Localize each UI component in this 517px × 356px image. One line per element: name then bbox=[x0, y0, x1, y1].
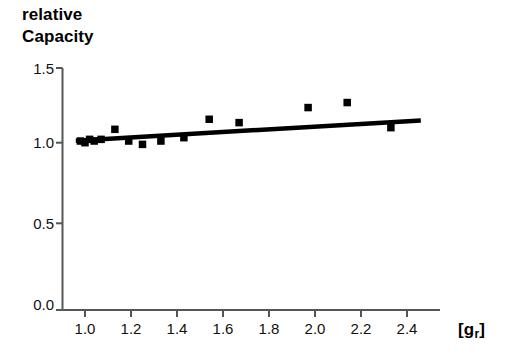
x-axis-ticks bbox=[85, 310, 407, 317]
data-point-marker bbox=[235, 119, 243, 127]
chart-figure: relativeCapacity [gr] 1.5 1.0 0.5 0.0 1.… bbox=[0, 0, 517, 356]
plot-area bbox=[0, 0, 517, 356]
data-point-marker bbox=[205, 116, 213, 124]
data-point-marker bbox=[387, 124, 395, 132]
data-point-marker bbox=[139, 141, 147, 149]
data-point-marker bbox=[304, 104, 312, 112]
data-point-marker bbox=[157, 137, 165, 145]
data-point-marker bbox=[125, 137, 133, 145]
data-point-marker bbox=[111, 126, 119, 134]
data-point-marker bbox=[90, 137, 98, 145]
data-point-marker bbox=[180, 134, 188, 142]
data-point-marker bbox=[343, 99, 351, 107]
axis-lines bbox=[63, 68, 441, 310]
data-point-marker bbox=[97, 136, 105, 144]
